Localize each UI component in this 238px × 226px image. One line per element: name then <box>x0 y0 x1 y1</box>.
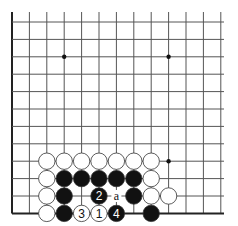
point-label: a <box>114 189 120 203</box>
white-stone: 3 <box>73 205 89 221</box>
white-stone <box>143 188 159 204</box>
white-stone <box>73 153 89 169</box>
black-stone <box>126 188 142 204</box>
black-stone <box>56 188 72 204</box>
white-stone <box>108 153 124 169</box>
white-stone <box>39 153 55 169</box>
white-stone <box>91 153 107 169</box>
black-stone <box>143 205 159 221</box>
star-point-icon <box>166 159 170 163</box>
stones-layer: 2314 <box>39 153 177 222</box>
star-point-icon <box>62 55 66 59</box>
white-stone <box>126 153 142 169</box>
white-stone: 1 <box>91 205 107 221</box>
move-number: 1 <box>96 207 103 221</box>
black-stone <box>126 170 142 186</box>
white-stone <box>160 188 176 204</box>
marks-layer: a <box>111 189 121 203</box>
white-stone <box>143 170 159 186</box>
black-stone <box>56 170 72 186</box>
white-stone <box>143 153 159 169</box>
move-number: 4 <box>113 207 120 221</box>
white-stone <box>39 205 55 221</box>
go-board: 2314 a <box>0 0 238 226</box>
black-stone <box>56 205 72 221</box>
black-stone <box>91 170 107 186</box>
black-stone: 4 <box>108 205 124 221</box>
move-number: 2 <box>96 189 103 203</box>
move-number: 3 <box>78 207 85 221</box>
black-stone <box>108 170 124 186</box>
black-stone: 2 <box>91 188 107 204</box>
white-stone <box>56 153 72 169</box>
white-stone <box>39 188 55 204</box>
star-point-icon <box>166 55 170 59</box>
black-stone <box>73 170 89 186</box>
white-stone <box>39 170 55 186</box>
